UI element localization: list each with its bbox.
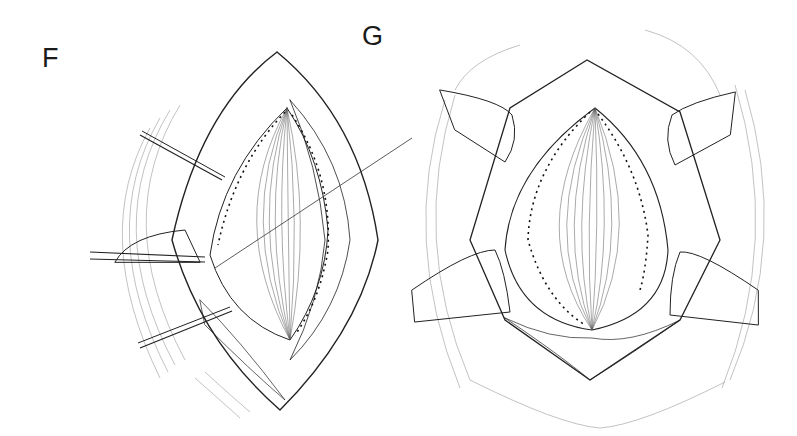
wound-outline-f — [172, 52, 378, 410]
muscle-fascia-f — [210, 108, 328, 340]
suture-thread — [215, 138, 412, 268]
panel-f-illustration — [90, 52, 412, 418]
muscle-g — [505, 108, 668, 330]
suture-line-left-f — [218, 112, 285, 245]
retractor-blade-lower-left — [412, 250, 510, 322]
retractor-blade-upper-left — [440, 90, 515, 162]
panel-g-illustration — [412, 30, 764, 428]
retractor-middle — [90, 252, 205, 262]
retractor-upper — [140, 131, 225, 180]
skin-contour-lines-g — [426, 30, 765, 428]
suture-line-right-f — [292, 115, 328, 335]
suture-line-right-g — [598, 114, 648, 290]
retractor-blade-upper-right — [668, 92, 735, 165]
